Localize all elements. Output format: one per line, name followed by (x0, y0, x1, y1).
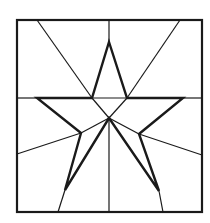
star-quilt-diagram (0, 0, 210, 223)
division-lines (17, 20, 202, 212)
division-line (159, 191, 163, 212)
division-line (58, 190, 65, 212)
division-line (109, 98, 127, 118)
division-line (92, 98, 109, 118)
division-line (17, 133, 81, 154)
division-line (139, 134, 202, 155)
division-line (127, 20, 180, 98)
division-line (37, 20, 92, 98)
